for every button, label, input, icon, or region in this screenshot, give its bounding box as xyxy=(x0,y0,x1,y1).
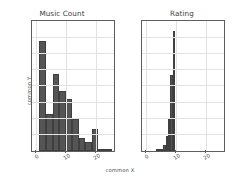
y-axis-tick xyxy=(31,85,32,86)
chart-title-rating: Rating xyxy=(124,9,240,18)
x-axis-tick-label: 0 xyxy=(144,153,150,160)
histogram-bars-music-count xyxy=(32,21,114,151)
gridline-horizontal xyxy=(32,102,114,103)
x-axis-tick-label: 10 xyxy=(62,152,71,161)
y-axis-tick xyxy=(141,118,142,119)
y-axis-tick xyxy=(141,53,142,54)
x-axis-tick-label: 10 xyxy=(172,152,181,161)
histogram-bar xyxy=(46,114,53,151)
gridline-vertical xyxy=(146,21,147,151)
gridline-vertical xyxy=(66,21,67,151)
plot-area-music-count: 050100150200250300350400 xyxy=(31,20,115,152)
gridline-horizontal xyxy=(142,69,224,70)
histogram-bar xyxy=(72,119,79,152)
y-axis-tick xyxy=(31,36,32,37)
histogram-bar xyxy=(59,91,66,151)
y-axis-tick xyxy=(31,134,32,135)
y-axis-tick xyxy=(141,36,142,37)
histogram-bar xyxy=(85,142,92,151)
x-axis-tick-label: 20 xyxy=(202,152,211,161)
gridline-horizontal xyxy=(32,134,114,135)
gridline-horizontal xyxy=(142,102,224,103)
y-axis-tick xyxy=(141,150,142,151)
gridline-horizontal xyxy=(142,85,224,86)
y-axis-tick xyxy=(141,101,142,102)
gridline-horizontal xyxy=(142,53,224,54)
gridline-horizontal xyxy=(32,85,114,86)
histogram-bar xyxy=(173,31,175,151)
y-axis-tick xyxy=(31,53,32,54)
gridline-vertical xyxy=(36,21,37,151)
subplot-rating: Rating 01020 xyxy=(124,0,240,177)
y-axis-tick xyxy=(141,85,142,86)
gridline-horizontal xyxy=(32,69,114,70)
y-axis-tick xyxy=(141,134,142,135)
histogram-bar xyxy=(105,149,112,151)
gridline-vertical xyxy=(96,21,97,151)
y-axis-tick xyxy=(31,150,32,151)
y-axis-tick xyxy=(141,69,142,70)
gridline-horizontal xyxy=(142,37,224,38)
y-axis-tick xyxy=(31,101,32,102)
gridline-horizontal xyxy=(32,53,114,54)
gridline-vertical xyxy=(206,21,207,151)
y-axis-tick xyxy=(31,20,32,21)
x-axis-tick-label: 20 xyxy=(92,152,101,161)
y-axis-tick xyxy=(31,69,32,70)
chart-title-music-count: Music Count xyxy=(0,9,124,18)
gridline-horizontal xyxy=(32,118,114,119)
gridline-horizontal xyxy=(32,37,114,38)
y-axis-tick xyxy=(31,118,32,119)
gridline-horizontal xyxy=(142,118,224,119)
gridline-horizontal xyxy=(142,134,224,135)
shared-x-axis-label: common X xyxy=(0,167,240,173)
histogram-bars-rating xyxy=(142,21,224,151)
plot-area-rating xyxy=(141,20,225,152)
histogram-bar xyxy=(98,149,105,151)
subplot-music-count: Music Count 050100150200250300350400 010… xyxy=(0,0,124,177)
figure-canvas: common Y Music Count 0501001502002503003… xyxy=(0,0,240,177)
gridline-vertical xyxy=(176,21,177,151)
y-axis-tick xyxy=(141,20,142,21)
x-axis-tick-label: 0 xyxy=(34,153,40,160)
